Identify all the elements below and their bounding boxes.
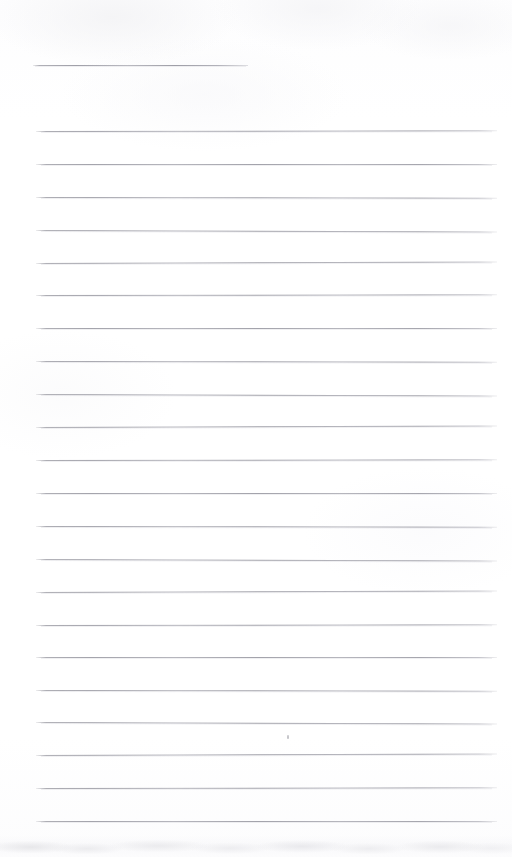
rule-line	[36, 591, 497, 593]
rule-line	[36, 328, 497, 329]
rule-line	[36, 361, 497, 363]
rule-line	[36, 426, 497, 428]
rule-line	[36, 130, 497, 132]
rule-line	[36, 164, 497, 165]
rule-line	[36, 459, 497, 461]
rule-line	[36, 657, 497, 658]
paper-texture	[0, 0, 512, 857]
rule-line	[36, 821, 497, 822]
rule-line	[36, 526, 497, 528]
rule-line	[36, 230, 497, 232]
rule-line	[36, 294, 497, 296]
rule-line	[36, 197, 497, 199]
rule-line	[36, 624, 497, 626]
rule-line-partial	[33, 65, 248, 66]
rule-line	[36, 787, 497, 789]
rule-line	[36, 690, 497, 692]
scanned-page	[0, 0, 512, 857]
rule-line	[36, 754, 497, 756]
rule-line	[36, 722, 497, 724]
rule-line	[36, 262, 497, 264]
rule-line	[36, 559, 497, 561]
rule-line	[36, 394, 497, 396]
scan-bottom-edge	[0, 835, 512, 857]
rule-line	[36, 493, 497, 494]
ink-speck-icon	[287, 735, 289, 739]
